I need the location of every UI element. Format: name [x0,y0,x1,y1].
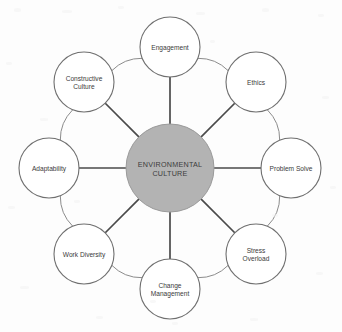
spoke-to-ethics [200,103,235,138]
ring-link-adaptability-to-constructive-culture [60,110,72,140]
ring-link-constructive-culture-to-engagement [112,58,142,70]
node-label-engagement: Engagement [151,44,189,52]
node-label-constructive-culture-line1: Constructive [66,75,103,82]
node-work-diversity[interactable]: Work Diversity [54,224,114,284]
node-label-adaptability: Adaptability [32,165,67,173]
node-label-change-management-line2: Management [151,290,190,298]
ring-link-stress-overload-to-change-management [198,265,228,277]
ring-link-engagement-to-ethics [198,58,228,70]
environmental-culture-diagram: EngagementEthicsProblem SolveStressOverl… [0,0,342,332]
node-label-ethics: Ethics [247,79,266,86]
node-circle-constructive-culture[interactable] [54,52,114,112]
node-stress-overload[interactable]: StressOverload [226,224,286,284]
ring-link-ethics-to-problem-solve [267,110,279,140]
node-problem-solve[interactable]: Problem Solve [261,138,321,198]
node-label-change-management-line1: Change [158,282,181,290]
node-label-problem-solve: Problem Solve [270,165,313,172]
ring-link-problem-solve-to-stress-overload [267,196,279,226]
ring-link-work-diversity-to-adaptability [60,196,72,226]
node-label-constructive-culture-line2: Culture [73,83,95,90]
node-label-work-diversity: Work Diversity [63,251,106,259]
node-label-stress-overload-line1: Stress [247,247,266,254]
hub-node: ENVIRONMENTALCULTURE [126,124,214,212]
spoke-to-work-diversity [105,198,140,233]
node-adaptability[interactable]: Adaptability [19,138,79,198]
node-circle-change-management[interactable] [140,259,200,319]
spoke-to-stress-overload [200,198,235,233]
hub-label-line1: ENVIRONMENTAL [138,160,203,169]
node-engagement[interactable]: Engagement [140,17,200,77]
node-change-management[interactable]: ChangeManagement [140,259,200,319]
node-constructive-culture[interactable]: ConstructiveCulture [54,52,114,112]
node-label-stress-overload-line2: Overload [243,255,270,262]
node-ethics[interactable]: Ethics [226,52,286,112]
hub-label-line2: CULTURE [152,169,187,178]
ring-link-change-management-to-work-diversity [112,265,142,277]
spoke-to-constructive-culture [105,103,140,138]
node-circle-stress-overload[interactable] [226,224,286,284]
diagram-canvas: EngagementEthicsProblem SolveStressOverl… [0,0,342,332]
